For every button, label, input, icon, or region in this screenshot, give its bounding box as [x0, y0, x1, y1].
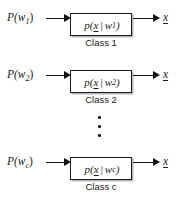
- density-condition: w: [105, 163, 112, 176]
- density-suffix: ): [116, 76, 120, 89]
- prior-label-text: P(w: [7, 68, 26, 80]
- arrow-head: [153, 14, 160, 22]
- arrow-shaft: [46, 162, 65, 164]
- density-condition: w: [105, 76, 112, 89]
- class-row-2: P(w2) p(x|w2) x Class 2: [0, 59, 189, 105]
- block-diagram-figure: P(w1) p(x|w1) x Class 1 P(w2): [0, 0, 189, 200]
- arrow-shaft: [46, 18, 65, 20]
- prior-label-paren: ): [30, 68, 34, 80]
- density-box-class-2: p(x|w2): [70, 70, 132, 93]
- density-condition: w: [105, 19, 112, 32]
- prior-label-paren: ): [29, 155, 33, 167]
- density-suffix: ): [116, 163, 120, 176]
- prior-label-text: P(w: [7, 11, 26, 23]
- density-prefix: p(: [84, 19, 93, 32]
- density-suffix: ): [116, 19, 120, 32]
- class-caption-c: Class c: [70, 181, 132, 192]
- output-label-class-c: x: [163, 155, 168, 168]
- arrow-head: [153, 158, 160, 166]
- arrow-head: [153, 71, 160, 79]
- output-arrow-icon-class-c: [133, 158, 161, 167]
- output-arrow-icon-class-1: [133, 14, 161, 23]
- class-caption-2: Class 2: [70, 94, 132, 105]
- ellipsis-dot: [98, 125, 101, 128]
- output-arrow-icon-class-2: [133, 71, 161, 80]
- input-arrow-icon-class-1: [46, 14, 71, 23]
- arrow-shaft: [46, 75, 65, 77]
- class-row-1: P(w1) p(x|w1) x Class 1: [0, 2, 189, 48]
- arrow-shaft: [133, 75, 154, 77]
- prior-label-paren: ): [30, 11, 34, 23]
- arrow-shaft: [133, 18, 154, 20]
- ellipsis-dot: [98, 116, 101, 119]
- vertical-ellipsis-icon: [96, 116, 106, 142]
- input-arrow-icon-class-2: [46, 71, 71, 80]
- output-label-class-1: x: [163, 11, 168, 24]
- density-box-label-class-c: p(x|wc): [71, 158, 133, 181]
- class-caption-1: Class 1: [70, 37, 132, 48]
- density-box-label-class-1: p(x|w1): [71, 14, 133, 37]
- density-box-label-class-2: p(x|w2): [71, 71, 133, 94]
- density-box-class-c: p(x|wc): [70, 157, 132, 180]
- prior-label-text: P(w: [7, 155, 26, 167]
- density-box-class-1: p(x|w1): [70, 13, 132, 36]
- output-label-class-2: x: [163, 68, 168, 81]
- input-arrow-icon-class-c: [46, 158, 71, 167]
- ellipsis-dot: [98, 134, 101, 137]
- arrow-shaft: [133, 162, 154, 164]
- class-row-c: P(wc) p(x|wc) x Class c: [0, 146, 189, 192]
- density-prefix: p(: [84, 76, 93, 89]
- density-prefix: p(: [85, 163, 94, 176]
